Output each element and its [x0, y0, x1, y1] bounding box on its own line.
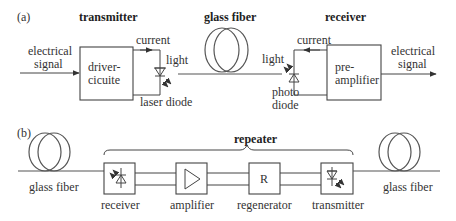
- preamp-label-1: pre-: [335, 60, 354, 74]
- panel-a-tag: (a): [17, 10, 30, 24]
- panel-b-tag: (b): [17, 126, 31, 140]
- tx-light-label: light: [166, 53, 189, 67]
- output-signal-label-2: signal: [398, 57, 427, 71]
- amplifier-box: [176, 163, 207, 194]
- fiber-optic-diagram: (a) transmitter glass fiber receiver ele…: [0, 0, 456, 221]
- rx-current-label: current: [297, 33, 332, 47]
- output-signal-label-1: electrical: [391, 44, 436, 58]
- laser-diode-icon: [154, 66, 171, 87]
- photo-diode-label-1: photo: [272, 85, 299, 99]
- input-signal-label-1: electrical: [28, 44, 73, 58]
- tx-current-wire-top: [133, 50, 160, 66]
- repeater-brace: [104, 145, 353, 155]
- preamp-label-2: amplifier: [335, 73, 379, 87]
- rx-light-label: light: [262, 52, 285, 66]
- driver-label-2: cicuite: [88, 73, 120, 87]
- left-glass-fiber-label: glass fiber: [29, 180, 79, 194]
- tx-current-label: current: [136, 33, 171, 47]
- tx-current-wire-bottom: [133, 82, 160, 95]
- photo-diode-label-2: diode: [272, 98, 299, 112]
- panel-b: (b) repeater glass fiber receiver amplif…: [17, 126, 440, 212]
- regenerator-symbol: R: [260, 172, 268, 186]
- input-signal-label-2: signal: [34, 57, 63, 71]
- repeater-title: repeater: [234, 132, 278, 146]
- receiver-label: receiver: [101, 198, 140, 212]
- right-glass-fiber-label: glass fiber: [383, 180, 433, 194]
- laser-diode-label: laser diode: [140, 95, 192, 109]
- regenerator-label: regenerator: [237, 198, 292, 212]
- glass-fiber-title: glass fiber: [204, 10, 257, 24]
- glass-fiber-coil-a: [178, 28, 282, 74]
- receiver-title: receiver: [325, 10, 367, 24]
- transmitter-label: transmitter: [312, 198, 364, 212]
- driver-label-1: driver-: [88, 60, 120, 74]
- glass-fiber-coil-right: [353, 133, 440, 171]
- panel-a: (a) transmitter glass fiber receiver ele…: [17, 10, 436, 112]
- repeater-receiver-box: [104, 163, 135, 194]
- transmitter-title: transmitter: [79, 10, 138, 24]
- amplifier-label: amplifier: [170, 198, 214, 212]
